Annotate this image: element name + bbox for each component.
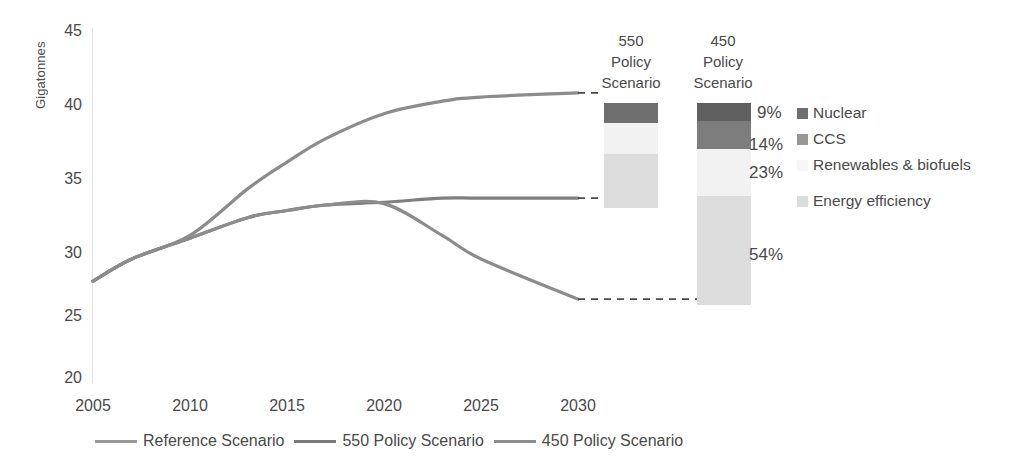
bar-header-550: 550 Policy Scenario: [583, 30, 679, 93]
series-legend-swatch-reference-icon: [95, 440, 137, 443]
series-legend-swatch-450-icon: [494, 440, 536, 443]
plot-area: [0, 0, 1009, 463]
bar-segment-renewables-biofuels: [604, 123, 658, 155]
series-legend-swatch-550-icon: [294, 440, 336, 443]
bar-segment-ccs: [697, 121, 751, 149]
bar-header-450: 450 Policy Scenario: [675, 30, 771, 93]
legend-swatch-ccs-icon: [797, 134, 808, 145]
stacked-bar-550-policy-scenario: [604, 103, 658, 208]
bar-header-550-line3: Scenario: [583, 72, 679, 93]
legend-label-renewables: Renewables & biofuels: [813, 156, 971, 174]
legend-swatch-nuclear-icon: [797, 108, 808, 119]
bar-segment-renewables-biofuels: [697, 149, 751, 195]
series-legend-label-reference: Reference Scenario: [143, 432, 284, 450]
legend-swatch-energy-efficiency-icon: [797, 196, 808, 207]
pct-label-ccs: 14%: [749, 135, 795, 155]
series-legend-item-450: 450 Policy Scenario: [494, 432, 683, 450]
series-line-450-policy-scenario: [93, 201, 578, 299]
legend-item-energy-efficiency: Energy efficiency: [797, 188, 1007, 214]
pct-label-renewables: 23%: [749, 163, 795, 183]
legend-item-nuclear: Nuclear: [797, 100, 1007, 126]
series-legend-label-450: 450 Policy Scenario: [542, 432, 683, 450]
bar-segment-energy-efficiency: [604, 154, 658, 208]
legend-label-ccs: CCS: [813, 130, 846, 148]
legend-item-ccs: CCS: [797, 126, 1007, 152]
emissions-abatement-chart: Gigatonnes 45 40 35 30 25 20 2005 2010 2…: [0, 0, 1009, 463]
bar-header-450-line1: 450: [675, 30, 771, 51]
legend-label-energy-efficiency: Energy efficiency: [813, 192, 931, 210]
category-legend: Nuclear CCS Renewables & biofuels Energy…: [797, 100, 1007, 214]
bar-segment-energy-efficiency: [697, 196, 751, 305]
legend-label-nuclear: Nuclear: [813, 104, 866, 122]
bar-header-550-line2: Policy: [583, 51, 679, 72]
legend-item-renewables: Renewables & biofuels: [797, 152, 1007, 178]
stacked-bar-450-policy-scenario: [697, 103, 751, 305]
bar-header-450-line3: Scenario: [675, 72, 771, 93]
bar-header-550-line1: 550: [583, 30, 679, 51]
series-legend-item-reference: Reference Scenario: [95, 432, 284, 450]
legend-swatch-renewables-icon: [797, 160, 808, 171]
series-line-reference-scenario: [93, 93, 578, 281]
series-legend: Reference Scenario 550 Policy Scenario 4…: [95, 432, 683, 450]
pct-label-efficiency: 54%: [749, 245, 795, 265]
bar-segment-nuclear: [604, 103, 658, 123]
bar-header-450-line2: Policy: [675, 51, 771, 72]
series-legend-label-550: 550 Policy Scenario: [342, 432, 483, 450]
bar-segment-nuclear: [697, 103, 751, 121]
series-legend-item-550: 550 Policy Scenario: [294, 432, 483, 450]
